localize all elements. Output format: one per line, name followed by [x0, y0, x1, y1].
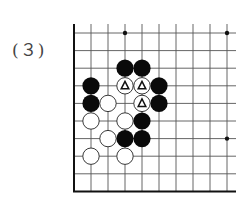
black-stone — [116, 60, 133, 77]
black-stone — [133, 112, 150, 129]
star-point — [225, 136, 229, 140]
white-stone — [83, 148, 99, 164]
star-point — [123, 31, 127, 35]
white-stone — [100, 95, 116, 111]
star-point — [225, 31, 229, 35]
white-stone — [117, 113, 133, 129]
black-stone — [82, 77, 99, 94]
go-board — [0, 0, 252, 205]
black-stone — [116, 130, 133, 147]
white-stone — [83, 113, 99, 129]
black-stone — [82, 95, 99, 112]
black-stone — [133, 130, 150, 147]
white-stone — [100, 130, 116, 146]
black-stone — [133, 60, 150, 77]
black-stone — [150, 95, 167, 112]
white-stone — [117, 148, 133, 164]
black-stone — [150, 77, 167, 94]
